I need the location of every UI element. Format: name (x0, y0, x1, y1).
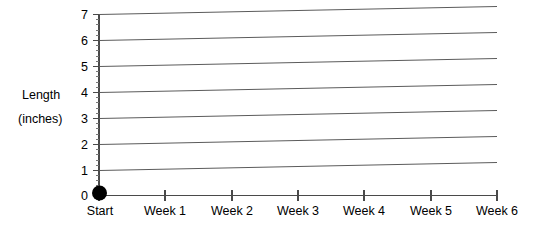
grid-line-1 (99, 163, 497, 171)
y-tick-label-5: 5 (81, 60, 88, 74)
grid-line-6 (99, 33, 497, 41)
y-tick-label-2: 2 (81, 138, 88, 152)
y-tick-label-0: 0 (81, 189, 88, 203)
x-label-week-4: Week 4 (343, 204, 385, 218)
x-label-week-5: Week 5 (410, 204, 452, 218)
x-label-week-3: Week 3 (277, 204, 319, 218)
y-tick-label-3: 3 (81, 112, 88, 126)
grid-line-4 (99, 85, 497, 93)
y-tick-label-6: 6 (81, 34, 88, 48)
x-label-week-6: Week 6 (476, 204, 518, 218)
grid-line-2 (99, 137, 497, 145)
y-tick-label-7: 7 (81, 8, 88, 22)
grid-line-7 (99, 7, 497, 15)
line-chart-canvas: Length (inches) (0, 0, 536, 230)
y-axis-title-line2: (inches) (18, 112, 62, 126)
x-label-week-1: Week 1 (144, 204, 186, 218)
y-tick-label-1: 1 (81, 164, 88, 178)
grid-line-3 (99, 111, 497, 119)
y-axis-title-line1: Length (22, 88, 60, 102)
x-label-week-2: Week 2 (211, 204, 253, 218)
y-tick-label-4: 4 (81, 86, 88, 100)
data-point-marker-start[interactable] (92, 186, 107, 201)
x-label-start: Start (87, 204, 114, 218)
chart-container: Length (inches) (0, 0, 536, 230)
grid-line-5 (99, 59, 497, 67)
